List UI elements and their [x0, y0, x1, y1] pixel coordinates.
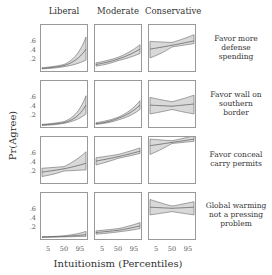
panel-liberal	[40, 192, 88, 240]
y-tick: .4	[22, 102, 36, 110]
confidence-band	[96, 223, 140, 235]
y-tick: .4	[22, 158, 36, 166]
x-tick: 5	[150, 245, 162, 253]
y-tick: .4	[22, 214, 36, 222]
panel-conservative	[148, 192, 196, 240]
confidence-band	[42, 37, 86, 69]
x-tick: 95	[128, 245, 140, 253]
row-label-global-warming: Global warming not a pressing problem	[200, 201, 272, 228]
column-title-moderate: Moderate	[91, 6, 145, 16]
panel-liberal	[40, 136, 88, 184]
row-label-line: southern	[200, 99, 272, 108]
x-tick: 50	[166, 245, 178, 253]
panel-frame	[95, 81, 142, 128]
row-label-line: Favor more	[200, 34, 272, 43]
y-tick: .6	[22, 37, 36, 45]
row-label-line: problem	[200, 219, 272, 228]
confidence-band	[150, 35, 194, 58]
row-label-line: Global warming	[200, 201, 272, 210]
confidence-band	[42, 96, 86, 126]
y-tick: .2	[22, 55, 36, 63]
x-tick: 5	[42, 245, 54, 253]
panel-moderate	[94, 192, 142, 240]
row-label-conceal-carry: Favor conceal carry permits	[200, 150, 272, 168]
y-tick: .4	[22, 46, 36, 54]
panel-conservative	[148, 80, 196, 128]
y-tick: .2	[22, 223, 36, 231]
confidence-band	[42, 152, 86, 177]
row-label-line: not a pressing	[200, 210, 272, 219]
column-title-conservative: Conservative	[145, 6, 199, 16]
confidence-band	[96, 101, 140, 125]
row-label-line: Favor wall on	[200, 90, 272, 99]
y-tick: .6	[22, 93, 36, 101]
row-label-defense-spending: Favor more defense spending	[200, 34, 272, 61]
panel-conservative	[148, 136, 196, 184]
y-tick: .2	[22, 167, 36, 175]
confidence-band	[150, 136, 194, 155]
x-axis-label: Intuitionism (Percentiles)	[40, 258, 196, 269]
panel-frame	[41, 81, 88, 128]
panel-frame	[41, 193, 88, 240]
row-label-line: spending	[200, 52, 272, 61]
row-label-southern-wall: Favor wall on southern border	[200, 90, 272, 117]
x-tick: 95	[74, 245, 86, 253]
row-label-line: defense	[200, 43, 272, 52]
x-tick: 5	[96, 245, 108, 253]
x-tick: 50	[112, 245, 124, 253]
panel-moderate	[94, 136, 142, 184]
panel-conservative	[148, 24, 196, 72]
panel-liberal	[40, 80, 88, 128]
panel-moderate	[94, 24, 142, 72]
row-label-line: Favor conceal	[200, 150, 272, 159]
y-tick: .6	[22, 205, 36, 213]
y-tick: .6	[22, 149, 36, 157]
panel-frame	[149, 193, 196, 240]
x-tick: 95	[182, 245, 194, 253]
panel-liberal	[40, 24, 88, 72]
y-tick: .2	[22, 111, 36, 119]
x-tick: 50	[58, 245, 70, 253]
column-title-liberal: Liberal	[37, 6, 91, 16]
row-label-line: carry permits	[200, 159, 272, 168]
row-label-line: border	[200, 108, 272, 117]
y-axis-label: Pr(Agree)	[7, 111, 18, 161]
panel-moderate	[94, 80, 142, 128]
